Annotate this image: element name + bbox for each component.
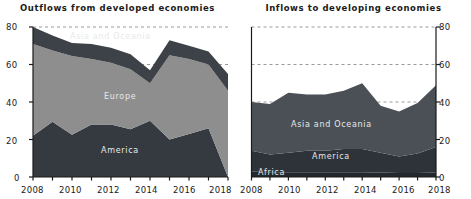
series-label-left-europe: Europe — [104, 92, 136, 101]
series-label-right-asia: Asia and Oceania — [291, 120, 372, 129]
chart-panel-outflows: Outflows from developed economies 80 60 … — [0, 0, 235, 199]
figure: Outflows from developed economies 80 60 … — [0, 0, 471, 199]
series-label-right-africa: Africa — [258, 168, 285, 177]
series-label-left-asia: Asia and Oceania — [70, 32, 151, 41]
series-label-left-america: America — [101, 146, 139, 155]
chart-panel-inflows: Inflows to developing economies 80 60 40… — [236, 0, 471, 199]
series-label-right-america: America — [312, 152, 350, 161]
